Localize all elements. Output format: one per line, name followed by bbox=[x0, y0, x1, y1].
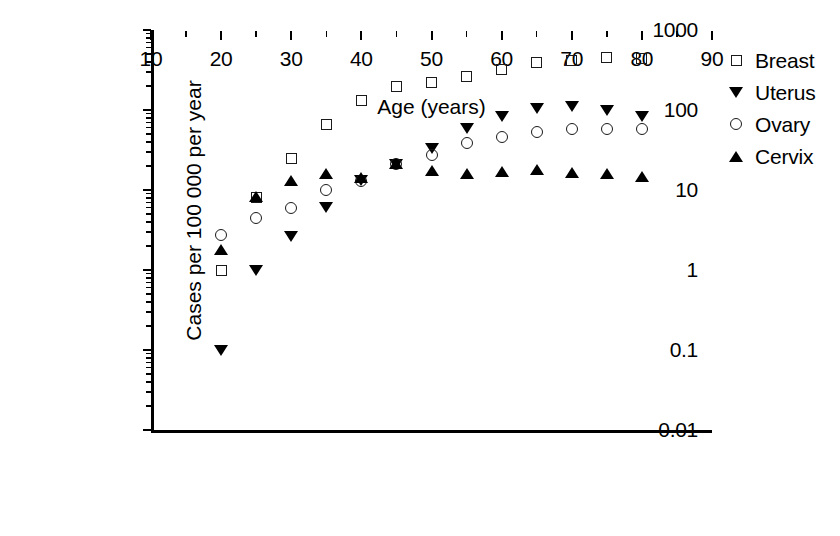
y-tick-minor bbox=[146, 213, 151, 215]
data-point-cervix bbox=[354, 172, 368, 183]
y-tick-minor bbox=[146, 193, 151, 195]
x-tick-major bbox=[641, 31, 643, 40]
data-point-breast bbox=[496, 64, 507, 75]
x-tick-major bbox=[431, 31, 433, 40]
data-point-breast bbox=[216, 265, 227, 276]
data-point-cervix bbox=[425, 165, 439, 176]
filled-triangle-down-icon bbox=[726, 84, 746, 100]
data-point-breast bbox=[636, 53, 647, 64]
y-tick-minor bbox=[146, 151, 151, 153]
data-point-uterus bbox=[460, 123, 474, 134]
y-tick-minor bbox=[146, 42, 151, 44]
y-axis-line bbox=[151, 30, 154, 430]
y-tick-label: 1 bbox=[687, 259, 698, 280]
data-point-cervix bbox=[600, 168, 614, 179]
y-tick-minor bbox=[146, 381, 151, 383]
y-tick-minor bbox=[146, 301, 151, 303]
x-tick-label: 30 bbox=[261, 48, 321, 69]
data-point-breast bbox=[391, 81, 402, 92]
data-point-breast bbox=[531, 57, 542, 68]
x-tick-major bbox=[711, 31, 713, 40]
y-tick-minor bbox=[146, 85, 151, 87]
y-tick-minor bbox=[146, 353, 151, 355]
x-axis-line bbox=[151, 430, 712, 433]
y-tick-minor bbox=[146, 117, 151, 119]
x-tick-label: 50 bbox=[402, 48, 462, 69]
y-tick-major bbox=[143, 429, 151, 431]
y-tick-minor bbox=[146, 311, 151, 313]
legend-item-label: Cervix bbox=[755, 146, 813, 167]
data-point-ovary bbox=[496, 131, 508, 143]
y-tick-minor bbox=[146, 325, 151, 327]
legend-item-label: Breast bbox=[755, 50, 815, 71]
x-tick-minor bbox=[396, 31, 398, 37]
data-point-cervix bbox=[635, 171, 649, 182]
data-point-cervix bbox=[214, 244, 228, 255]
data-point-cervix bbox=[460, 168, 474, 179]
x-tick-major bbox=[290, 31, 292, 40]
chart-legend: BreastUterusOvaryCervix bbox=[726, 44, 816, 172]
y-tick-minor bbox=[146, 391, 151, 393]
y-tick-minor bbox=[146, 373, 151, 375]
data-point-cervix bbox=[319, 168, 333, 179]
x-tick-minor bbox=[326, 31, 328, 37]
y-axis-title: Cases per 100 000 per year bbox=[183, 41, 204, 381]
y-tick-minor bbox=[146, 197, 151, 199]
y-tick-minor bbox=[146, 207, 151, 209]
data-point-ovary bbox=[215, 229, 227, 241]
x-axis-title: Age (years) bbox=[151, 96, 712, 117]
x-tick-major bbox=[220, 31, 222, 40]
y-tick-minor bbox=[146, 367, 151, 369]
data-point-ovary bbox=[601, 123, 613, 135]
x-tick-minor bbox=[466, 31, 468, 37]
y-tick-minor bbox=[146, 277, 151, 279]
y-tick-minor bbox=[146, 282, 151, 284]
data-point-cervix bbox=[495, 166, 509, 177]
x-tick-label: 40 bbox=[331, 48, 391, 69]
y-tick-minor bbox=[146, 133, 151, 135]
y-tick-minor bbox=[146, 293, 151, 295]
y-tick-minor bbox=[146, 357, 151, 359]
x-tick-minor bbox=[255, 31, 257, 37]
data-point-ovary bbox=[566, 123, 578, 135]
legend-item-ovary[interactable]: Ovary bbox=[726, 108, 816, 140]
y-tick-minor bbox=[146, 202, 151, 204]
data-point-cervix bbox=[284, 175, 298, 186]
y-tick-minor bbox=[146, 165, 151, 167]
data-point-uterus bbox=[249, 265, 263, 276]
data-point-breast bbox=[461, 71, 472, 82]
y-tick-minor bbox=[146, 127, 151, 129]
data-point-ovary bbox=[285, 202, 297, 214]
data-point-breast bbox=[426, 77, 437, 88]
legend-item-label: Uterus bbox=[755, 82, 816, 103]
y-tick-major bbox=[143, 269, 151, 271]
x-tick-major bbox=[571, 31, 573, 40]
legend-item-uterus[interactable]: Uterus bbox=[726, 76, 816, 108]
y-tick-minor bbox=[146, 141, 151, 143]
y-tick-label: 10 bbox=[675, 179, 698, 200]
data-point-uterus bbox=[284, 231, 298, 242]
data-point-breast bbox=[321, 119, 332, 130]
chart-figure: 0.010.11101001000 102030405060708090 Cas… bbox=[0, 0, 840, 536]
y-tick-minor bbox=[146, 231, 151, 233]
data-point-ovary bbox=[426, 149, 438, 161]
data-point-ovary bbox=[320, 184, 332, 196]
y-tick-minor bbox=[146, 71, 151, 73]
filled-triangle-up-icon bbox=[726, 148, 746, 164]
y-tick-minor bbox=[146, 362, 151, 364]
x-tick-minor bbox=[536, 31, 538, 37]
y-tick-minor bbox=[146, 245, 151, 247]
y-tick-minor bbox=[146, 221, 151, 223]
y-tick-major bbox=[143, 189, 151, 191]
legend-item-cervix[interactable]: Cervix bbox=[726, 140, 816, 172]
x-tick-label: 10 bbox=[121, 48, 181, 69]
open-square-icon bbox=[726, 52, 746, 68]
open-circle-icon bbox=[726, 116, 746, 132]
data-point-uterus bbox=[214, 345, 228, 356]
data-point-cervix bbox=[389, 158, 403, 169]
data-point-breast bbox=[601, 52, 612, 63]
data-point-breast bbox=[566, 55, 577, 66]
y-tick-minor bbox=[146, 405, 151, 407]
y-tick-label: 0.1 bbox=[670, 339, 698, 360]
legend-item-breast[interactable]: Breast bbox=[726, 44, 816, 76]
